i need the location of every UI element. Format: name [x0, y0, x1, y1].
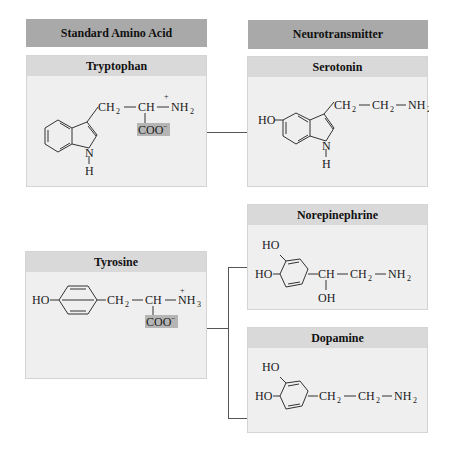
svg-text:COO: COO — [138, 123, 164, 137]
svg-text:CH: CH — [319, 389, 336, 403]
svg-text:NH: NH — [394, 389, 412, 403]
svg-text:HO: HO — [255, 389, 273, 403]
tryptophan-structure: N H CH 2 CH + NH 2 COO − — [27, 56, 208, 188]
svg-text:2: 2 — [190, 107, 194, 116]
svg-text:COO: COO — [146, 315, 172, 329]
svg-text:CH: CH — [138, 100, 155, 114]
svg-text:2: 2 — [427, 105, 429, 114]
svg-text:2: 2 — [390, 105, 394, 114]
svg-text:2: 2 — [368, 274, 372, 283]
svg-text:2: 2 — [352, 105, 356, 114]
molecule-card-norepinephrine: Norepinephrine HO HO CH CH 2 NH 2 OH — [247, 204, 428, 310]
svg-text:NH: NH — [408, 98, 426, 112]
svg-text:OH: OH — [318, 291, 336, 305]
svg-text:−: − — [171, 314, 176, 323]
svg-text:NH: NH — [171, 100, 189, 114]
svg-text:NH: NH — [178, 293, 196, 307]
svg-text:HO: HO — [262, 360, 280, 374]
svg-text:CH: CH — [145, 293, 162, 307]
svg-text:HO: HO — [255, 267, 273, 281]
connector-tyrosine-stem — [207, 328, 228, 329]
molecule-card-dopamine: Dopamine HO HO CH 2 CH 2 NH 2 — [247, 327, 428, 433]
svg-text:CH: CH — [358, 389, 375, 403]
header-neurotransmitter: Neurotransmitter — [248, 20, 428, 49]
svg-text:CH: CH — [107, 293, 124, 307]
connector-to-norepinephrine — [228, 267, 247, 268]
svg-text:2: 2 — [413, 396, 417, 405]
molecule-card-tryptophan: Tryptophan N H CH 2 CH + NH 2 COO − — [26, 55, 207, 187]
molecule-card-serotonin: Serotonin HO N H CH 2 CH 2 NH 2 — [247, 56, 428, 187]
dopamine-structure: HO HO CH 2 CH 2 NH 2 — [248, 328, 429, 434]
svg-text:+: + — [164, 92, 169, 101]
svg-text:H: H — [85, 164, 94, 178]
svg-text:HO: HO — [258, 113, 276, 127]
header-label: Standard Amino Acid — [61, 26, 172, 41]
svg-text:H: H — [322, 157, 331, 171]
serotonin-structure: HO N H CH 2 CH 2 NH 2 — [248, 57, 429, 188]
svg-text:CH: CH — [372, 98, 389, 112]
svg-text:N: N — [322, 139, 331, 153]
svg-text:2: 2 — [116, 107, 120, 116]
svg-text:HO: HO — [262, 238, 280, 252]
svg-text:N: N — [85, 146, 94, 160]
norepinephrine-structure: HO HO CH CH 2 NH 2 OH — [248, 205, 429, 311]
molecule-card-tyrosine: Tyrosine HO CH 2 CH + NH 3 COO − — [25, 251, 207, 379]
header-label: Neurotransmitter — [293, 27, 383, 42]
connector-tryptophan-serotonin — [207, 132, 247, 133]
svg-text:NH: NH — [388, 267, 406, 281]
svg-text:2: 2 — [337, 396, 341, 405]
svg-text:CH: CH — [350, 267, 367, 281]
svg-text:CH: CH — [334, 98, 351, 112]
svg-text:2: 2 — [407, 274, 411, 283]
svg-text:HO: HO — [32, 293, 50, 307]
svg-text:2: 2 — [376, 396, 380, 405]
svg-text:2: 2 — [125, 300, 129, 309]
svg-text:3: 3 — [197, 300, 201, 309]
header-standard-amino-acid: Standard Amino Acid — [26, 19, 207, 47]
svg-text:CH: CH — [318, 267, 335, 281]
tyrosine-structure: HO CH 2 CH + NH 3 COO − — [26, 252, 208, 380]
svg-text:CH: CH — [98, 100, 115, 114]
connector-to-dopamine — [228, 418, 247, 419]
svg-text:−: − — [163, 122, 168, 131]
connector-tyrosine-branch — [228, 267, 229, 419]
